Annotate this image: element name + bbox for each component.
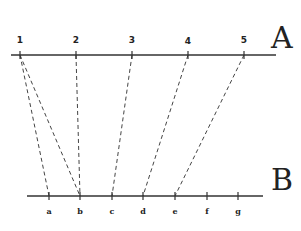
tick-label-2: 2 — [73, 35, 79, 45]
connection-3-c — [112, 55, 132, 196]
tick-label-4: 4 — [185, 36, 191, 46]
connection-2-b — [76, 55, 80, 196]
tick-label-3: 3 — [129, 35, 135, 45]
tick-label-d: d — [140, 206, 146, 216]
connection-1-a — [20, 55, 49, 196]
line-a-title: A — [270, 20, 293, 55]
tick-label-1: 1 — [17, 35, 23, 45]
mapping-diagram: A B 12345 abcdefg — [0, 0, 301, 231]
connection-4-d — [143, 55, 188, 196]
tick-label-f: f — [205, 206, 209, 216]
connection-1-b — [20, 55, 80, 196]
tick-label-a: a — [46, 206, 51, 216]
line-b-title: B — [271, 162, 293, 197]
tick-label-b: b — [77, 206, 83, 216]
tick-label-5: 5 — [241, 35, 247, 45]
connection-5-e — [175, 55, 244, 196]
tick-label-g: g — [235, 206, 241, 216]
tick-label-c: c — [110, 206, 115, 216]
tick-label-e: e — [172, 206, 177, 216]
dashed-connections — [20, 55, 244, 196]
